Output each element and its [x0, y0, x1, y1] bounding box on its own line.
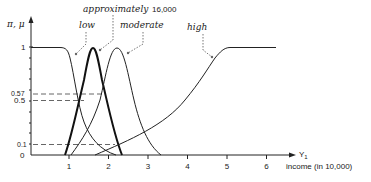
- leader-moderate: [128, 32, 143, 53]
- svg-text:3: 3: [146, 162, 151, 171]
- leader-approx: [100, 15, 113, 50]
- x-tick-labels: 1 2 3 4 5 6: [67, 162, 270, 171]
- svg-text:5: 5: [225, 162, 230, 171]
- label-high: high: [187, 22, 207, 32]
- leader-high: [203, 34, 212, 57]
- label-approx-value: 16,000: [152, 5, 177, 14]
- y-axis-arrow-icon: [29, 16, 34, 23]
- membership-function-chart: π, μ 1 0.57 0.5 0.1 0 1 2 3 4 5 6 Y1 inc…: [0, 0, 371, 182]
- label-low: low: [79, 20, 95, 30]
- label-approximately: approximately: [83, 4, 149, 14]
- y-tick-label-01: 0.1: [17, 141, 27, 148]
- label-moderate: moderate: [120, 20, 164, 30]
- curve-high: [95, 48, 276, 156]
- x-axis-symbol: Y1: [299, 150, 308, 160]
- y-tick-label-0: 0: [20, 151, 25, 160]
- x-axis-ticks: [69, 155, 267, 159]
- svg-text:4: 4: [185, 162, 190, 171]
- svg-text:6: 6: [264, 162, 269, 171]
- y-tick-label-05: 0.5: [14, 96, 26, 105]
- y-tick-label-1: 1: [21, 43, 26, 52]
- curve-low: [31, 48, 116, 156]
- y-axis-label: π, μ: [6, 19, 25, 29]
- svg-text:2: 2: [106, 162, 111, 171]
- svg-text:1: 1: [67, 162, 72, 171]
- leader-low: [76, 32, 86, 54]
- x-axis-arrow-icon: [289, 153, 296, 158]
- x-axis-caption: income (in 10,000): [286, 162, 353, 171]
